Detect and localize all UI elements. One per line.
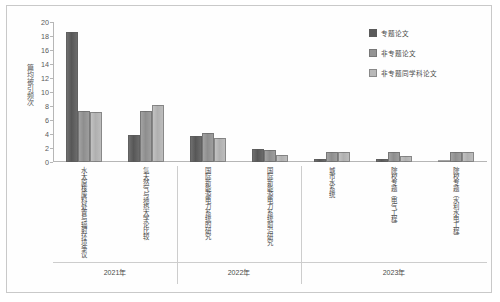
bar[interactable] bbox=[190, 136, 202, 162]
x-axis-category-label: 国际新能源电力系统的研究 bbox=[205, 167, 212, 239]
bar[interactable] bbox=[314, 159, 326, 162]
bar[interactable] bbox=[400, 156, 412, 162]
x-axis-category-label: 城市水系统 bbox=[329, 167, 336, 197]
x-axis-category-label: 国际新能源电力系统前沿研究 bbox=[267, 167, 274, 245]
y-axis-tick-label: 18 bbox=[27, 32, 49, 41]
bar-group bbox=[314, 22, 350, 162]
bar[interactable] bbox=[438, 160, 450, 162]
y-axis-tick-label: 20 bbox=[27, 18, 49, 27]
x-axis-category-label: 院校专题（水利水电工程） bbox=[453, 167, 460, 239]
y-axis-tick-mark bbox=[50, 22, 53, 23]
chart-legend: 专题论文非专题论文非专题同学科论文 bbox=[369, 28, 487, 88]
y-axis-tick-label: 8 bbox=[27, 102, 49, 111]
bar[interactable] bbox=[264, 150, 276, 162]
year-group-label: 2021年 bbox=[104, 267, 127, 277]
y-axis-tick-label: 16 bbox=[27, 46, 49, 55]
y-axis-tick-mark bbox=[50, 162, 53, 163]
y-axis-tick-mark bbox=[50, 106, 53, 107]
bar-group bbox=[252, 22, 288, 162]
bar[interactable] bbox=[338, 152, 350, 162]
bar[interactable] bbox=[388, 152, 400, 163]
year-group-label: 2023年 bbox=[383, 267, 406, 277]
y-axis-tick-mark bbox=[50, 50, 53, 51]
year-separator bbox=[301, 166, 302, 284]
year-baseline bbox=[53, 262, 487, 263]
bar[interactable] bbox=[326, 152, 338, 162]
x-axis-category-label: 水太原核废料处置与辐射环境争议 bbox=[81, 167, 88, 257]
y-axis-tick-label: 2 bbox=[27, 144, 49, 153]
bar[interactable] bbox=[214, 138, 226, 162]
legend-item-label: 非专题论文 bbox=[381, 48, 416, 58]
bar[interactable] bbox=[252, 149, 264, 162]
y-axis-tick-mark bbox=[50, 134, 53, 135]
y-axis-tick-mark bbox=[50, 148, 53, 149]
bar[interactable] bbox=[140, 111, 152, 162]
bar[interactable] bbox=[376, 159, 388, 162]
y-axis-tick-label: 6 bbox=[27, 116, 49, 125]
bar[interactable] bbox=[66, 32, 78, 162]
y-axis-tick-mark bbox=[50, 92, 53, 93]
legend-swatch-icon bbox=[369, 49, 377, 57]
y-axis-tick-mark bbox=[50, 36, 53, 37]
bar-group bbox=[190, 22, 226, 162]
bar[interactable] bbox=[450, 152, 462, 163]
year-band: 2021年2022年2023年 bbox=[53, 262, 487, 284]
bar[interactable] bbox=[462, 152, 474, 162]
y-axis-tick-mark bbox=[50, 78, 53, 79]
legend-item[interactable]: 非专题论文 bbox=[369, 48, 487, 57]
y-axis-tick-label: 12 bbox=[27, 74, 49, 83]
legend-item[interactable]: 非专题同学科论文 bbox=[369, 68, 487, 77]
bar[interactable] bbox=[202, 133, 214, 162]
y-axis-tick-mark bbox=[50, 64, 53, 65]
y-axis-tick-label: 10 bbox=[27, 88, 49, 97]
x-axis-category-label: 院校专题（电气工程） bbox=[391, 167, 398, 227]
bar[interactable] bbox=[276, 155, 288, 162]
legend-swatch-icon bbox=[369, 69, 377, 77]
y-axis-tick-mark bbox=[50, 120, 53, 121]
bar[interactable] bbox=[90, 112, 102, 162]
legend-item-label: 非专题同学科论文 bbox=[381, 68, 437, 78]
bar[interactable] bbox=[128, 135, 140, 162]
y-axis-tick-label: 0 bbox=[27, 158, 49, 167]
x-axis-category-label: 氢天然气与地热大学论比较 bbox=[143, 167, 150, 239]
bar[interactable] bbox=[78, 111, 90, 162]
year-separator bbox=[177, 166, 178, 284]
y-axis-tick-label: 4 bbox=[27, 130, 49, 139]
y-axis-line bbox=[53, 22, 54, 162]
chart-frame: 篇均被引频次 02468101214161820 水太原核废料处置与辐射环境争议… bbox=[6, 5, 492, 293]
year-group-label: 2022年 bbox=[228, 267, 251, 277]
bar[interactable] bbox=[152, 105, 164, 162]
bar-group bbox=[128, 22, 164, 162]
bar-group bbox=[66, 22, 102, 162]
legend-item[interactable]: 专题论文 bbox=[369, 28, 487, 37]
y-axis-tick-label: 14 bbox=[27, 60, 49, 69]
legend-swatch-icon bbox=[369, 29, 377, 37]
legend-item-label: 专题论文 bbox=[381, 28, 409, 38]
y-axis-title: 篇均被引频次 bbox=[20, 64, 34, 106]
